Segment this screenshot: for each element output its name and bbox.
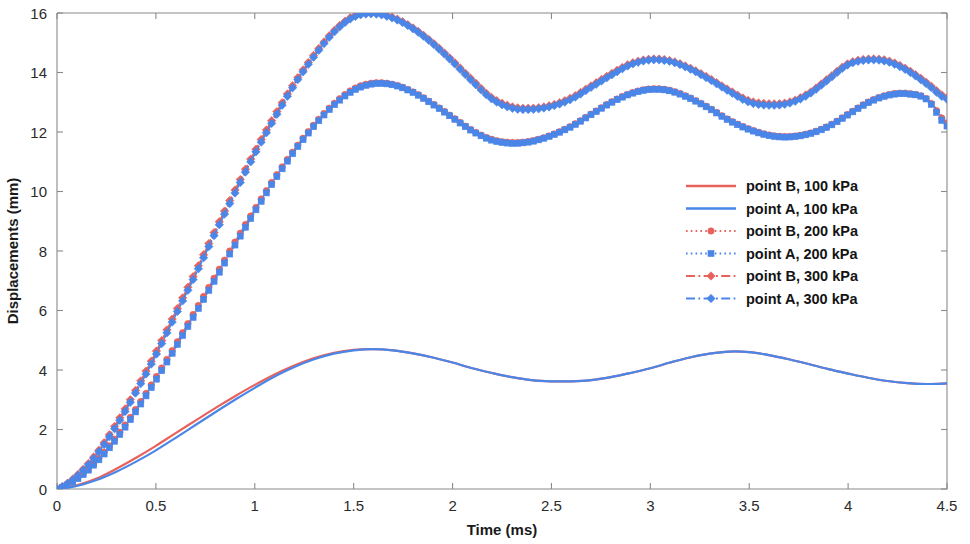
series-marker-square <box>169 350 175 356</box>
series-marker-square <box>185 324 191 330</box>
x-tick-label: 1.5 <box>343 497 364 514</box>
series-marker-square <box>274 174 280 180</box>
y-tick-label: 10 <box>30 183 47 200</box>
x-tick-label: 2 <box>448 497 456 514</box>
series-marker-square <box>143 393 149 399</box>
x-tick-label: 0 <box>53 497 61 514</box>
series-marker-square <box>206 287 212 293</box>
series-marker-square <box>253 207 259 213</box>
y-axis-title: Displacements (mm) <box>4 178 21 325</box>
series-marker-square <box>311 124 317 130</box>
series-marker-square <box>316 118 322 124</box>
x-tick-label: 4.5 <box>937 497 958 514</box>
series-marker-square <box>923 96 929 102</box>
series-marker-square <box>227 251 233 257</box>
series-marker-square <box>174 341 180 347</box>
legend-label-3: point B, 200 kPa <box>746 223 859 239</box>
series-marker-square <box>138 401 144 407</box>
series-marker-square <box>159 368 165 374</box>
x-tick-label: 3.5 <box>739 497 760 514</box>
series-marker-square <box>201 296 207 302</box>
series-marker-square <box>305 130 311 136</box>
series-marker-square <box>195 305 201 311</box>
x-tick-label: 1 <box>251 497 259 514</box>
series-marker-square <box>279 166 285 172</box>
series-marker-square <box>190 314 196 320</box>
y-tick-label: 14 <box>30 64 47 81</box>
series-marker-square <box>164 359 170 365</box>
series-marker-square <box>708 251 714 257</box>
series-marker-square <box>284 158 290 164</box>
x-tick-label: 0.5 <box>145 497 166 514</box>
legend-label-1: point B, 100 kPa <box>746 178 859 194</box>
series-marker-square <box>122 424 128 430</box>
series-marker-square <box>117 431 123 437</box>
y-tick-label: 12 <box>30 124 47 141</box>
series-marker-square <box>232 242 238 248</box>
legend-label-4: point A, 200 kPa <box>746 246 858 262</box>
series-marker-square <box>112 438 118 444</box>
displacements-vs-time-chart: 00.511.522.533.544.50246810121416 point … <box>0 0 970 544</box>
series-marker-square <box>237 233 243 239</box>
y-tick-label: 2 <box>39 421 47 438</box>
legend-label-5: point B, 300 kPa <box>746 268 859 284</box>
series-marker-circle <box>708 228 714 234</box>
chart-figure: 00.511.522.533.544.50246810121416 point … <box>0 0 970 544</box>
y-tick-label: 4 <box>39 362 47 379</box>
series-marker-square <box>928 101 934 107</box>
series-marker-square <box>290 151 296 157</box>
legend-label-2: point A, 100 kPa <box>746 201 858 217</box>
legend-label-6: point A, 300 kPa <box>746 291 858 307</box>
x-tick-label: 2.5 <box>541 497 562 514</box>
y-tick-label: 0 <box>39 481 47 498</box>
series-marker-square <box>300 137 306 143</box>
x-tick-label: 3 <box>646 497 654 514</box>
series-marker-square <box>939 117 945 123</box>
series-marker-square <box>211 278 217 284</box>
series-marker-square <box>216 269 222 275</box>
series-marker-square <box>295 144 301 150</box>
series-marker-square <box>269 182 275 188</box>
series-marker-square <box>127 417 133 423</box>
y-tick-label: 16 <box>30 5 47 22</box>
y-tick-label: 8 <box>39 243 47 260</box>
x-tick-label: 4 <box>844 497 852 514</box>
series-marker-square <box>222 260 228 266</box>
series-marker-square <box>248 215 254 221</box>
series-marker-square <box>153 376 159 382</box>
series-marker-square <box>934 109 940 115</box>
series-marker-square <box>180 333 186 339</box>
series-marker-square <box>258 198 264 204</box>
series-marker-square <box>133 409 139 415</box>
series-marker-square <box>263 190 269 196</box>
x-axis-title: Time (ms) <box>467 521 538 538</box>
series-marker-square <box>148 385 154 391</box>
series-marker-square <box>242 224 248 230</box>
y-tick-label: 6 <box>39 302 47 319</box>
